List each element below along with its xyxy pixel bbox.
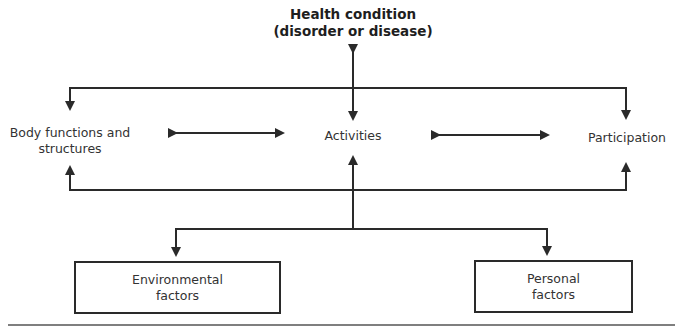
body-functions-label-line1: Body functions and [5,125,135,141]
environmental-label-line2: factors [132,288,223,304]
body-functions-label-line2: structures [5,141,135,157]
personal-label-line2: factors [527,287,580,303]
personal-label-line1: Personal [527,271,580,287]
health-condition-sublabel: (disorder or disease) [253,23,453,40]
branch-to-personal [353,229,547,254]
bottom-branch-to-participation [353,164,626,190]
environmental-factors-box: Environmental factors [74,261,281,314]
body-functions-node: Body functions and structures [5,125,135,157]
participation-label: Participation [582,130,672,146]
health-condition-node: Health condition (disorder or disease) [253,6,453,40]
personal-factors-box: Personal factors [474,260,633,313]
branch-to-environmental [176,229,353,255]
activities-node: Activities [313,128,393,144]
participation-node: Participation [582,130,672,146]
environmental-label-line1: Environmental [132,272,223,288]
bottom-branch-to-body [70,167,353,190]
top-branch-to-body [70,88,353,109]
health-condition-label: Health condition [253,6,453,23]
activities-label: Activities [313,128,393,144]
top-branch-to-participation [353,88,626,118]
